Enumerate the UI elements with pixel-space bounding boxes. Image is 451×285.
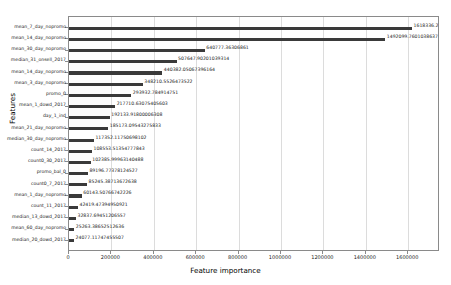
bar-value-label: 293932.784914751 [133,91,178,96]
y-tick-label: mean_14_day_nopromo [0,70,66,75]
y-tick-label: mean_7_day_nopromo [0,25,66,30]
bar-value-label: 1492099.7601038637 [387,35,438,40]
bar[interactable] [69,217,76,220]
gridline [323,17,324,250]
y-tick-label: median_31_onsell_2017 [0,58,66,63]
y-tick-label: mean_21_day_nopromo [0,126,66,131]
y-tick-label: count_11_2017 [0,204,66,209]
bar[interactable] [69,139,94,142]
bar-value-label: 640777.36306861 [206,46,248,51]
bar-value-label: 117352.11750698102 [95,136,146,141]
bar-value-label: 42419.47394950921 [79,203,127,208]
bar[interactable] [69,172,88,175]
bar-value-label: 507647.90201039314 [178,57,229,62]
bar[interactable] [69,105,115,108]
bar[interactable] [69,116,110,119]
y-tick-label: mean_60_day_nopromo [0,226,66,231]
bar-value-label: 192133.91800006308 [111,113,162,118]
bar[interactable] [69,239,74,242]
y-tick-label: promo_0 [0,92,66,97]
bar-value-label: 108553.51354777843 [94,147,145,152]
bar[interactable] [69,161,91,164]
bar[interactable] [69,83,143,86]
bar-value-label: 32837.69451206557 [77,214,125,219]
bar[interactable] [69,49,205,52]
gridline [239,17,240,250]
y-tick-label: count0_7_2017 [0,182,66,187]
gridline [281,17,282,250]
bar-value-label: 102385.99963140488 [92,158,143,163]
y-tick-label: median_30_day_nopromo [0,137,66,142]
bar-value-label: 1618336.2085949414 [414,24,439,29]
y-tick-label: day_1_ind [0,114,66,119]
bar-value-label: 348210.5526473522 [144,80,192,85]
bar-value-label: 185173.09543275833 [110,124,161,129]
gridline [408,17,409,250]
y-tick-label: mean_1_day_nopromo [0,193,66,198]
x-tick-label: 1600000 [377,254,437,260]
y-tick-label: count_14_2017 [0,148,66,153]
bar[interactable] [69,150,92,153]
y-tick-label: mean_1_dowd_2017 [0,103,66,108]
bar-value-label: 89196.77378124527 [89,169,137,174]
y-tick-label: mean_3_day_nopromo [0,81,66,86]
bar[interactable] [69,60,177,63]
bar-value-label: 440382.05067396164 [164,68,215,73]
bar[interactable] [69,194,82,197]
bar[interactable] [69,228,74,231]
x-axis-title: Feature importance [0,266,451,275]
gridline [366,17,367,250]
y-tick-label: promo_bal_0 [0,170,66,175]
y-tick-label: median_20_dowd_2017 [0,238,66,243]
bar[interactable] [69,94,131,97]
plot-area: 1618336.20859494141492099.76010386376407… [68,16,439,251]
bar-value-label: 24077.11747455507 [76,236,124,241]
bar[interactable] [69,38,385,41]
y-tick-label: mean_30_day_nopromo [0,47,66,52]
bar[interactable] [69,206,78,209]
y-tick-label: mean_14_day_nopromo [0,36,66,41]
y-tick-label: median_13_dowd_2017 [0,215,66,220]
y-tick-label: count0_30_2017 [0,159,66,164]
bar[interactable] [69,183,87,186]
bar-value-label: 25263.38652512636 [76,225,124,230]
feature-importance-chart: Features Feature importance 1618336.2085… [0,0,451,285]
bar[interactable] [69,71,162,74]
bar[interactable] [69,127,108,130]
bar-value-label: 60143.50766742226 [83,191,131,196]
bar[interactable] [69,27,412,30]
bar-value-label: 217710.63075405603 [117,102,168,107]
bar-value-label: 85245.38713672638 [89,180,137,185]
